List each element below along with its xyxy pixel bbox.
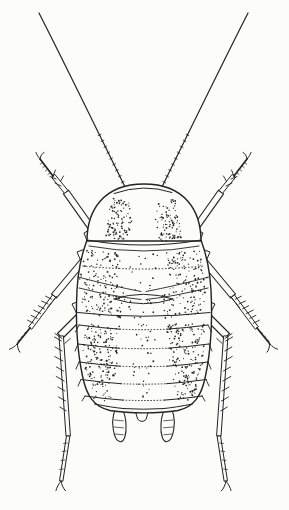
hind-tarsus — [60, 436, 70, 481]
hind-tarsus-right — [218, 436, 228, 481]
middle-claw — [10, 344, 21, 353]
figure-page — [0, 0, 289, 510]
hind-tibia — [59, 336, 70, 436]
hind-claw-right — [222, 481, 232, 491]
front-tibia — [52, 175, 68, 194]
front-tarsus-segments — [40, 162, 50, 174]
front-tarsus-segments-right — [237, 162, 247, 174]
cercus-right — [161, 408, 174, 442]
front-tarsus-right — [234, 159, 247, 176]
antenna-segments-right — [163, 134, 189, 183]
middle-tibia-right — [232, 295, 259, 329]
middle-claw-right — [267, 344, 278, 353]
pronotum — [87, 184, 201, 241]
insect-illustration — [0, 0, 289, 510]
hind-claw — [56, 481, 66, 491]
front-claw-right — [243, 153, 251, 160]
front-claw — [36, 153, 44, 160]
cercus — [113, 408, 126, 442]
hind-tibia-right — [217, 336, 228, 436]
antenna-segments — [98, 134, 124, 183]
front-tibia-right — [219, 175, 235, 194]
front-tarsus — [40, 159, 53, 176]
body-outline — [76, 240, 211, 413]
middle-tibia — [29, 295, 56, 329]
